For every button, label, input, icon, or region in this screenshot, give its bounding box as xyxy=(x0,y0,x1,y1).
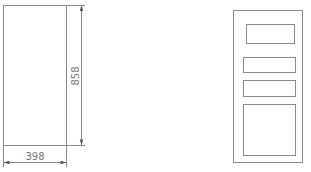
right-view xyxy=(234,11,303,163)
middle-panel-1-rect xyxy=(244,58,296,73)
top-panel-rect xyxy=(247,25,295,44)
middle-panel-2-rect xyxy=(244,81,296,97)
arrowhead-down-icon xyxy=(80,140,83,146)
technical-drawing-canvas: 858 398 xyxy=(0,0,311,172)
height-dimension-label: 858 xyxy=(70,66,81,85)
bottom-panel-rect xyxy=(244,105,296,156)
arrowhead-left-icon xyxy=(4,161,10,164)
arrowhead-right-icon xyxy=(61,161,67,164)
left-view: 858 398 xyxy=(3,5,85,167)
width-dimension-label: 398 xyxy=(25,151,44,162)
panel-outline-rect xyxy=(4,6,67,146)
